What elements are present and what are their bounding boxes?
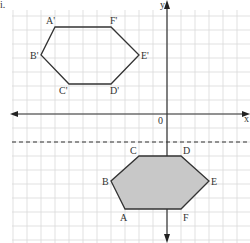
coordinate-diagram: y x 0 i. A' F' E' D' C' B' C D E F A B xyxy=(0,0,250,243)
y-axis-down-arrow-icon xyxy=(164,234,170,243)
object-hexagon xyxy=(111,156,209,209)
vertex-label-d: D xyxy=(183,145,190,156)
x-axis-label: x xyxy=(244,113,249,124)
vertex-label-c: C xyxy=(130,145,137,156)
vertex-label-d-prime: D' xyxy=(110,85,119,96)
question-number: i. xyxy=(0,0,5,10)
origin-label: 0 xyxy=(158,115,163,126)
vertex-label-a: A xyxy=(120,212,128,223)
vertex-label-b: B xyxy=(102,176,109,187)
vertex-label-e-prime: E' xyxy=(141,50,149,61)
vertex-label-a-prime: A' xyxy=(46,15,55,26)
y-axis-label: y xyxy=(160,0,165,10)
image-hexagon xyxy=(41,27,139,84)
vertex-label-b-prime: B' xyxy=(30,50,39,61)
vertex-label-c-prime: C' xyxy=(59,85,68,96)
vertex-label-f: F xyxy=(183,212,189,223)
x-axis-left-arrow-icon xyxy=(10,111,18,117)
vertex-label-f-prime: F' xyxy=(110,15,118,26)
vertex-label-e: E xyxy=(211,176,217,187)
x-axis xyxy=(10,111,250,117)
